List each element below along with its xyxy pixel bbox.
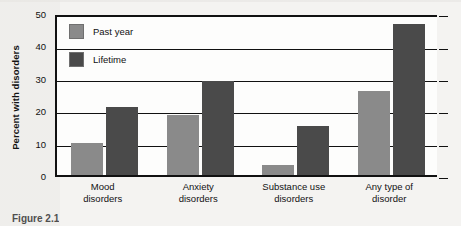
legend-label-lifetime: Lifetime <box>93 54 126 65</box>
x-axis-category-labels: MooddisordersAnxietydisordersSubstance u… <box>55 181 437 209</box>
tick-mark-20 <box>439 113 448 114</box>
legend-swatch-past-year <box>69 24 84 39</box>
x-label-3: Any type ofdisorder <box>342 181 438 204</box>
chart-legend: Past year Lifetime <box>69 24 133 80</box>
bar-past-year-1 <box>167 115 199 175</box>
legend-swatch-lifetime <box>69 52 84 67</box>
tick-mark-0 <box>439 178 448 179</box>
y-tick-label-50: 50 <box>0 9 46 20</box>
legend-item-past-year: Past year <box>69 24 133 39</box>
x-label-1: Anxietydisorders <box>151 181 247 204</box>
bar-lifetime-2 <box>297 126 329 175</box>
gridline-30 <box>57 81 437 82</box>
y-tick-label-30: 30 <box>0 74 46 85</box>
tick-mark-10 <box>439 146 448 147</box>
bar-chart-figure: Percent with disorders 01020304050 Past … <box>0 0 461 226</box>
bar-past-year-3 <box>358 91 390 175</box>
tick-mark-50 <box>439 16 448 17</box>
bar-lifetime-3 <box>393 24 425 175</box>
tick-mark-30 <box>439 81 448 82</box>
bar-past-year-2 <box>262 165 294 175</box>
plot-area: Past year Lifetime <box>55 15 437 177</box>
bar-past-year-0 <box>71 143 103 175</box>
tick-mark-40 <box>439 49 448 50</box>
bar-lifetime-1 <box>202 81 234 175</box>
y-axis-tick-labels: 01020304050 <box>0 0 52 226</box>
x-label-0: Mooddisorders <box>55 181 151 204</box>
legend-label-past-year: Past year <box>93 26 133 37</box>
x-label-2: Substance usedisorders <box>246 181 342 204</box>
y-tick-label-40: 40 <box>0 41 46 52</box>
figure-caption: Figure 2.1 <box>12 213 59 225</box>
legend-item-lifetime: Lifetime <box>69 52 133 67</box>
y-tick-label-0: 0 <box>0 171 46 182</box>
bar-lifetime-0 <box>106 107 138 175</box>
y-tick-label-20: 20 <box>0 106 46 117</box>
y-tick-label-10: 10 <box>0 139 46 150</box>
